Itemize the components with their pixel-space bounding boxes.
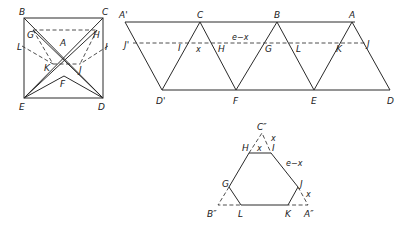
strip-zigzag: [125, 22, 390, 90]
label-l: L: [17, 42, 22, 52]
label-c-double-prime: C″: [257, 122, 267, 132]
label-f: F: [60, 79, 66, 89]
label-g: G: [27, 30, 34, 40]
side-label-x-top: x: [256, 144, 262, 153]
label-b: B: [274, 10, 280, 20]
label-a-double-prime: A″: [303, 209, 314, 219]
square-diagram: B C E D A F G H I J K L: [17, 7, 109, 112]
label-k: K: [336, 44, 343, 54]
side-label-e-minus-x: e−x: [286, 159, 303, 168]
label-d-prime: D': [156, 96, 165, 106]
label-e: E: [311, 96, 317, 106]
side-label-x-lower-corner: x: [305, 190, 311, 199]
label-i: I: [272, 143, 275, 153]
label-c: C: [102, 7, 109, 17]
label-g: G: [222, 179, 229, 189]
label-b-double-prime: B″: [207, 209, 217, 219]
label-l: L: [238, 209, 243, 219]
dashed-left-corner: [218, 187, 241, 205]
label-d: D: [387, 96, 394, 106]
dashed-right-corner: [288, 187, 308, 205]
label-b: B: [19, 7, 25, 17]
label-a: A: [348, 10, 355, 20]
segment-label-x: x: [195, 45, 201, 54]
label-l: L: [296, 44, 301, 54]
label-h: H: [93, 30, 100, 40]
hexagon-diagram: C″ B″ A″ H I G J L K x x e−x x: [207, 122, 314, 219]
label-g: G: [265, 44, 272, 54]
label-h: H: [242, 143, 249, 153]
label-h: H: [218, 44, 225, 54]
label-i: I: [105, 42, 108, 52]
strip-diagram: A' C B A D' F E D J' I H G L K J x e−x: [118, 10, 394, 106]
geometry-figure: B C E D A F G H I J K L A' C B A D' F E …: [0, 0, 416, 232]
label-k: K: [285, 209, 292, 219]
label-a: A: [59, 38, 66, 48]
label-d: D: [98, 102, 105, 112]
segment-label-e-minus-x: e−x: [232, 33, 249, 42]
dashed-lk: [22, 46, 53, 64]
label-e: E: [19, 102, 25, 112]
side-label-x-upper-corner: x: [270, 134, 276, 143]
label-i: I: [178, 43, 181, 53]
label-a-prime: A': [118, 10, 128, 20]
label-c: C: [197, 10, 204, 20]
label-f: F: [233, 96, 239, 106]
label-j-prime: J': [122, 40, 129, 50]
